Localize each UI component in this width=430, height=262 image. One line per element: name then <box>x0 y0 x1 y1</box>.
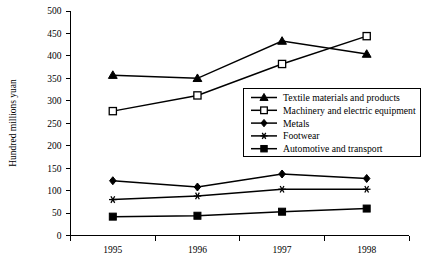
y-tick-label: 200 <box>47 141 62 151</box>
legend-label: Textile materials and products <box>283 92 400 103</box>
y-tick-label: 450 <box>47 29 62 39</box>
x-tick-label: 1998 <box>357 245 376 255</box>
y-axis-title-text: Hundred millions yuan <box>8 79 18 167</box>
y-tick-label: 400 <box>47 51 62 61</box>
data-point-marker <box>109 196 117 203</box>
y-tick-label: 50 <box>52 208 62 218</box>
y-tick-label: 150 <box>47 164 62 174</box>
data-point-marker <box>109 108 116 115</box>
chart-canvas: Hundred millions yuan 050100150200250300… <box>0 0 430 262</box>
data-point-marker <box>363 205 370 212</box>
data-series <box>109 186 370 203</box>
legend-label: Automotive and transport <box>283 143 383 154</box>
x-tick-label: 1997 <box>273 245 292 255</box>
data-point-marker <box>363 174 370 182</box>
data-series <box>110 170 370 191</box>
legend-label: Machinery and electric equipment <box>283 105 416 116</box>
data-point-marker <box>261 107 268 114</box>
series-polyline <box>113 174 367 187</box>
chart-legend: Textile materials and productsMachinery … <box>244 89 421 157</box>
data-point-marker <box>278 60 285 67</box>
y-tick-label: 350 <box>47 74 62 84</box>
series-polyline <box>113 209 367 217</box>
y-tick-label: 500 <box>47 6 62 16</box>
x-axis-ticks: 1995199619971998 <box>71 236 410 255</box>
line-chart: Hundred millions yuan 050100150200250300… <box>0 0 430 262</box>
series-polyline <box>113 189 367 199</box>
y-axis-title: Hundred millions yuan <box>8 79 18 167</box>
y-tick-label: 300 <box>47 96 62 106</box>
x-tick-label: 1995 <box>103 245 122 255</box>
data-point-marker <box>278 186 286 193</box>
y-tick-label: 250 <box>47 119 62 129</box>
y-tick-label: 100 <box>47 186 62 196</box>
data-point-marker <box>194 183 201 191</box>
legend-label: Footwear <box>283 130 320 141</box>
data-point-marker <box>363 33 370 40</box>
data-series <box>109 205 370 220</box>
y-tick-label: 0 <box>57 231 62 241</box>
data-point-marker <box>194 92 201 99</box>
data-point-marker <box>194 193 202 200</box>
data-point-marker <box>363 186 371 193</box>
legend-label: Metals <box>283 118 310 129</box>
data-point-marker <box>194 212 201 219</box>
data-point-marker <box>279 170 286 178</box>
x-tick-label: 1996 <box>188 245 207 255</box>
y-axis-ticks: 050100150200250300350400450500 <box>47 6 70 241</box>
data-point-marker <box>261 145 267 151</box>
data-point-marker <box>279 208 286 215</box>
data-point-marker <box>278 37 287 45</box>
data-point-marker <box>109 213 116 220</box>
data-point-marker <box>110 177 117 185</box>
series-polyline <box>113 41 367 78</box>
data-series <box>108 37 371 82</box>
